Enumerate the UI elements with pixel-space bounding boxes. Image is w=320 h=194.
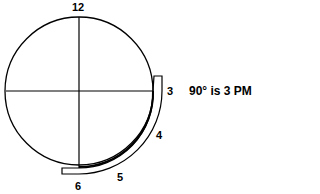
label-6: 6 bbox=[75, 181, 81, 192]
label-4: 4 bbox=[156, 130, 162, 141]
label-12: 12 bbox=[72, 2, 84, 13]
caption-text: 90° is 3 PM bbox=[189, 86, 252, 97]
label-3: 3 bbox=[167, 86, 173, 97]
label-5: 5 bbox=[117, 172, 123, 183]
